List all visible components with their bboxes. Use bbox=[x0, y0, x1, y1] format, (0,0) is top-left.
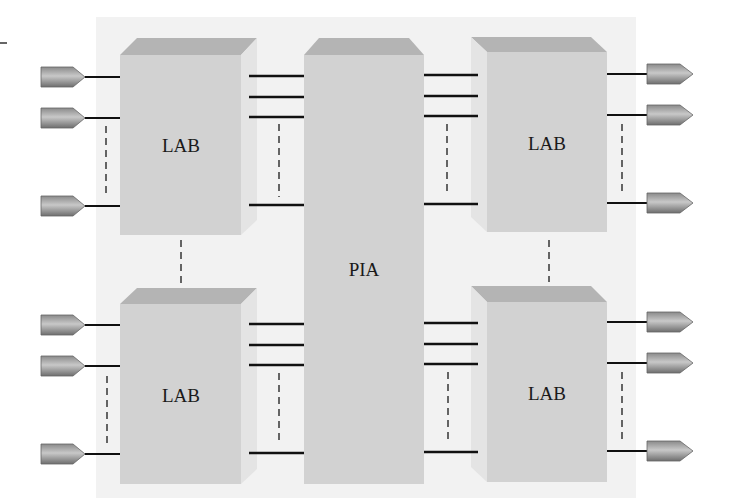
lab-side-face bbox=[241, 288, 257, 484]
lab-top-face bbox=[471, 37, 607, 52]
pia-block: PIA bbox=[304, 38, 424, 484]
cpld-architecture-diagram: PIA LAB LAB LAB LAB bbox=[0, 0, 732, 502]
lab-top-face bbox=[120, 288, 257, 304]
lab-block-bottom-right: LAB bbox=[471, 286, 607, 482]
lab-top-face bbox=[471, 286, 607, 302]
lab-label: LAB bbox=[162, 135, 200, 156]
pia-label: PIA bbox=[349, 259, 380, 280]
lab-label: LAB bbox=[528, 383, 566, 404]
lab-top-face bbox=[120, 38, 257, 55]
lab-block-top-left: LAB bbox=[120, 38, 257, 235]
lab-label: LAB bbox=[528, 133, 566, 154]
lab-block-top-right: LAB bbox=[471, 37, 607, 232]
lab-label: LAB bbox=[162, 385, 200, 406]
pia-top-face bbox=[304, 38, 424, 55]
lab-block-bottom-left: LAB bbox=[120, 288, 257, 484]
